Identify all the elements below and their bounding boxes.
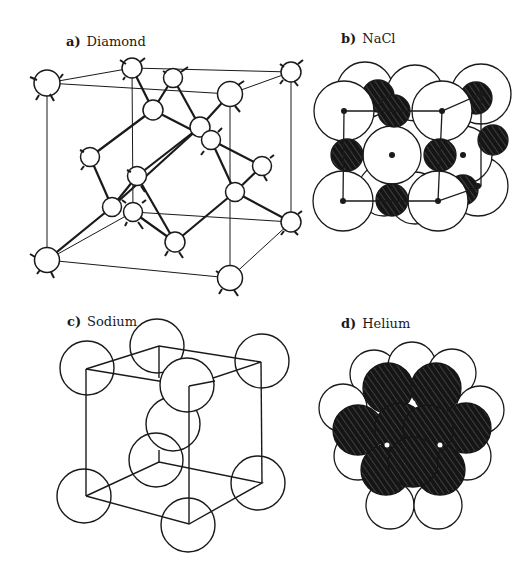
diamond-atoms [34,58,301,291]
crystal-structures-figure [0,0,532,578]
helium-structure [319,342,504,529]
nacl-structure [313,62,511,231]
diamond-structure [30,58,303,296]
diamond-bond-stubs [30,58,303,296]
sodium-structure [57,319,289,552]
